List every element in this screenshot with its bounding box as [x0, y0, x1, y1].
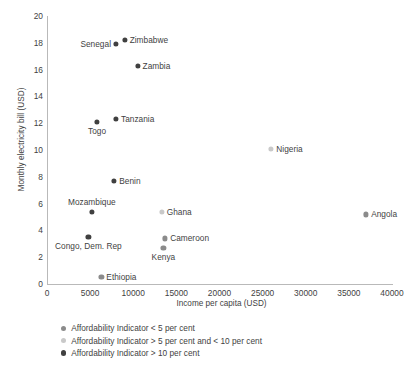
- data-point: [112, 178, 117, 183]
- data-point: [99, 275, 104, 280]
- legend-marker-icon: [61, 338, 66, 343]
- data-point: [163, 236, 168, 241]
- y-axis-tick: 6: [3, 199, 43, 209]
- data-point: [364, 212, 369, 217]
- data-point: [94, 119, 99, 124]
- data-point: [89, 209, 94, 214]
- y-axis-tick: 4: [3, 225, 43, 235]
- x-axis-line: [47, 284, 393, 285]
- data-point-label: Ghana: [167, 207, 192, 217]
- data-point-label: Congo, Dem. Rep: [55, 241, 122, 251]
- chart-legend: Affordability Indicator < 5 per centAffo…: [61, 322, 262, 359]
- data-point-label: Nigeria: [276, 144, 302, 154]
- legend-item-0[interactable]: Affordability Indicator < 5 per cent: [61, 322, 262, 334]
- legend-label: Affordability Indicator < 5 per cent: [71, 323, 195, 333]
- legend-marker-icon: [61, 326, 66, 331]
- data-point-label: Mozambique: [68, 197, 116, 207]
- x-axis-title: Income per capita (USD): [44, 299, 399, 308]
- y-axis-tick: 8: [3, 172, 43, 182]
- data-point-label: Benin: [119, 176, 140, 186]
- legend-label: Affordability Indicator > 5 per cent and…: [71, 336, 262, 346]
- data-point: [269, 146, 274, 151]
- data-point-label: Senegal: [80, 39, 111, 49]
- data-point-label: Angola: [371, 209, 397, 219]
- y-axis-tick-labels: 02468101214161820: [0, 16, 43, 284]
- data-point: [113, 117, 118, 122]
- y-axis-tick: 16: [3, 65, 43, 75]
- data-point-label: Togo: [88, 126, 106, 136]
- data-point-label: Cameroon: [170, 233, 209, 243]
- data-point-label: Zimbabwe: [130, 35, 168, 45]
- legend-item-1[interactable]: Affordability Indicator > 5 per cent and…: [61, 334, 262, 346]
- y-axis-tick: 2: [3, 252, 43, 262]
- data-point-label: Ethiopia: [106, 272, 136, 282]
- y-axis-tick: 12: [3, 118, 43, 128]
- data-point: [122, 38, 127, 43]
- data-point: [159, 209, 164, 214]
- data-point: [135, 63, 140, 68]
- x-axis-tick: 40000: [362, 288, 408, 298]
- y-axis-tick: 18: [3, 38, 43, 48]
- y-axis-tick: 10: [3, 145, 43, 155]
- data-point-label: Kenya: [152, 252, 176, 262]
- legend-item-2[interactable]: Affordability Indicator > 10 per cent: [61, 347, 262, 359]
- y-axis-tick: 20: [3, 11, 43, 21]
- data-point: [161, 245, 166, 250]
- legend-label: Affordability Indicator > 10 per cent: [71, 348, 199, 358]
- data-point: [113, 42, 118, 47]
- plot-area: AngolaCameroonKenyaEthiopiaNigeriaGhanaZ…: [47, 16, 392, 284]
- data-point-label: Tanzania: [121, 114, 154, 124]
- data-point: [86, 235, 91, 240]
- y-axis-tick: 14: [3, 91, 43, 101]
- legend-marker-icon: [61, 350, 66, 355]
- data-point-label: Zambia: [143, 61, 171, 71]
